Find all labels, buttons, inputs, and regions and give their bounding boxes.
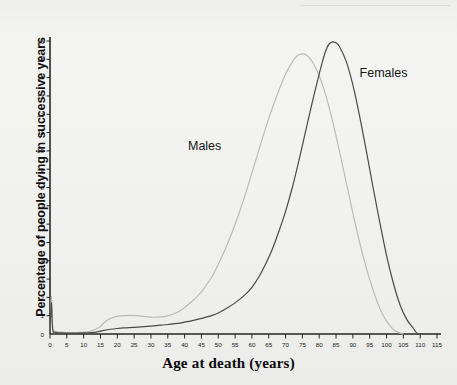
series-label-females: Females bbox=[360, 66, 408, 80]
y-tick-label: 11 bbox=[24, 129, 44, 136]
y-tick-label: 5 bbox=[24, 239, 44, 246]
chart-page: Percentage of people dying in successive… bbox=[0, 0, 457, 385]
series-line-males bbox=[50, 54, 403, 334]
series-label-males: Males bbox=[188, 139, 221, 153]
y-tick-label: 1 bbox=[24, 312, 44, 319]
y-tick-label: 6 bbox=[24, 221, 44, 228]
y-tick-label: 3 bbox=[24, 276, 44, 283]
chart-axes bbox=[47, 37, 442, 339]
y-tick-label: 14 bbox=[24, 74, 44, 81]
y-tick-label: 12 bbox=[24, 111, 44, 118]
y-tick-label: 13 bbox=[24, 93, 44, 100]
y-tick-label: 2 bbox=[24, 294, 44, 301]
y-tick-label: 8 bbox=[24, 184, 44, 191]
y-tick-label: 0 bbox=[24, 331, 44, 338]
y-tick-label: 16 bbox=[24, 38, 44, 45]
y-tick-label: 4 bbox=[24, 257, 44, 264]
y-tick-label: 9 bbox=[24, 166, 44, 173]
chart-series bbox=[50, 42, 420, 334]
series-line-females bbox=[50, 42, 420, 334]
x-tick-label: 115 bbox=[425, 341, 449, 348]
y-tick-label: 15 bbox=[24, 56, 44, 63]
x-axis-title: Age at death (years) bbox=[0, 355, 457, 372]
chart-plot-area bbox=[0, 0, 457, 385]
y-tick-label: 10 bbox=[24, 147, 44, 154]
y-tick-label: 7 bbox=[24, 202, 44, 209]
